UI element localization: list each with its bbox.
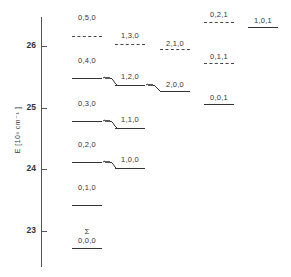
coupling-020-100 xyxy=(103,161,117,169)
energy-level-diagram: 26 25 24 23 E [10³ cm⁻¹ ] 0,5,0 0,4,0 0,… xyxy=(0,0,291,277)
coupling-120-200 xyxy=(146,84,160,91)
fermi-coupling-connectors xyxy=(0,0,291,277)
coupling-030-110 xyxy=(103,120,117,128)
coupling-040-120 xyxy=(103,77,117,85)
